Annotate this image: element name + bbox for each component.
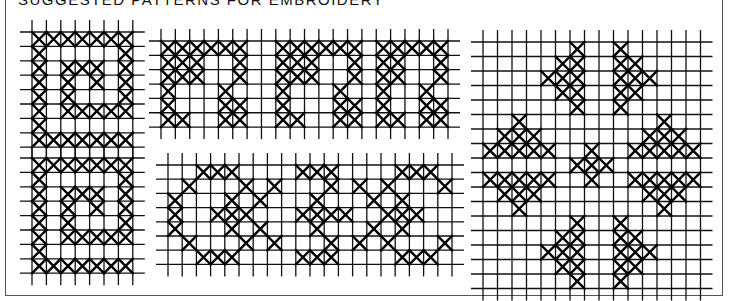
embroidery-patterns-canvas	[0, 0, 729, 301]
spiral-top-pattern	[20, 20, 145, 159]
octagon-border-pattern	[156, 153, 464, 276]
key-border-pattern	[149, 29, 460, 139]
spiral-bottom-pattern	[20, 146, 145, 285]
floral-motif-pattern	[471, 30, 713, 301]
